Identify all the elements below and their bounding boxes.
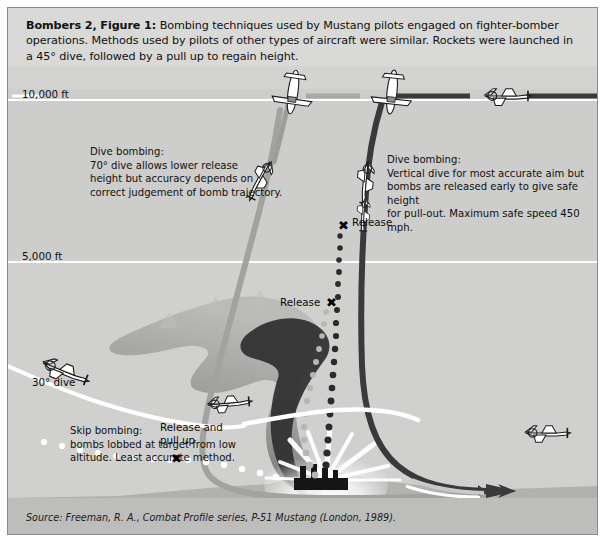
aircraft-dive-vertical-top [370,68,414,116]
altitude-label-5000: 5,000 ft [22,250,62,262]
altitude-label-10000: 10,000 ft [22,88,69,100]
figure-page: Bombers 2, Figure 1: Bombing techniques … [0,0,603,540]
aircraft-dive-70-top [270,67,316,116]
label-release-and-pull-up: Release and pull up [160,421,223,447]
figure-frame: Bombers 2, Figure 1: Bombing techniques … [7,7,598,535]
source-citation: Source: Freeman, R. A., Combat Profile s… [26,512,396,523]
release-marker-pullup-icon: ✖ [171,452,182,465]
label-release-left: Release [280,296,320,309]
annotation-dive-vertical: Dive bombing: Vertical dive for most acc… [387,153,597,235]
annotation-dive-70deg: Dive bombing: 70° dive allows lower rele… [90,145,305,199]
figure-label: Bombers 2, Figure 1: [26,19,156,32]
label-release-right: Release [352,216,392,229]
aircraft-level-10000 [485,89,531,106]
release-marker-right-icon: ✖ [338,219,349,232]
caption-paragraph: Bombers 2, Figure 1: Bombing techniques … [26,18,581,64]
diagram-scene: 10,000 ft 5,000 ft Dive bombing: 70° div… [8,66,597,534]
figure-caption: Bombers 2, Figure 1: Bombing techniques … [8,8,597,66]
label-30-degree-dive: 30° dive [32,376,75,389]
aircraft-skip-release [207,394,252,414]
aircraft-pullout [526,426,571,442]
release-marker-left-icon: ✖ [326,296,337,309]
